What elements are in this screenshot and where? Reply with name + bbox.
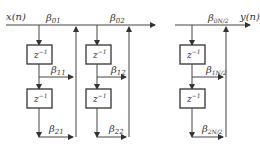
coef-b21: β21 [48,123,64,136]
coef-b02: β02 [109,12,125,25]
section-n2: β0N/2 y(n) z−1 β1N/2 z−1 β2N/2 [175,11,260,137]
output-label: y(n) [239,11,260,22]
coef-b22: β22 [108,123,124,136]
coef-b11: β11 [50,64,66,77]
cascade-filter-diagram: x(n) β01 z−1 β11 z−1 β21 β02 z−1 β12 z−1… [0,0,260,150]
section-1: β01 z−1 β11 z−1 β21 [6,12,155,137]
section-2: β02 z−1 β12 z−1 β22 [86,12,129,137]
input-label: x(n) [6,11,26,22]
coef-b01: β01 [45,12,61,25]
coef-b12: β12 [110,64,126,77]
coef-b0n2: β0N/2 [207,12,229,24]
coef-b1n2: β1N/2 [205,64,227,76]
coef-b2n2: β2N/2 [201,123,223,135]
